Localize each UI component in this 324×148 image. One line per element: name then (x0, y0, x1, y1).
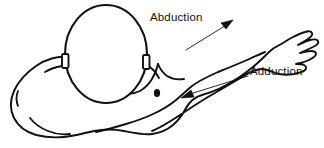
anatomical-figure: Abduction Adduction (0, 0, 324, 148)
shoulder-notch (158, 64, 184, 79)
nipple-mark (154, 89, 160, 97)
ear-right-icon (143, 55, 150, 69)
head-outline (65, 5, 147, 103)
abduction-arrow (186, 20, 233, 50)
body-outline (11, 31, 318, 137)
ear-left-icon (62, 54, 69, 68)
abduction-label: Abduction (150, 12, 203, 24)
adduction-label: Adduction (250, 66, 303, 78)
